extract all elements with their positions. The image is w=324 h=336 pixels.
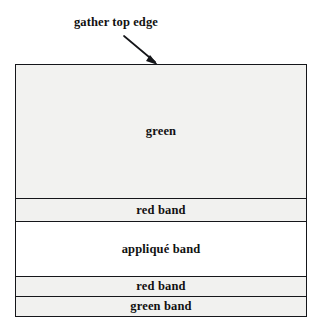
band-red-lower-label: red band: [136, 280, 185, 293]
band-red-lower: red band: [16, 277, 306, 297]
band-green-lower: green band: [16, 297, 306, 316]
band-applique: appliqué band: [16, 222, 306, 277]
sewing-pattern-diagram: gather top edge green red band appliqué …: [0, 0, 324, 336]
band-green-main: green: [16, 65, 306, 199]
band-green-main-label: green: [146, 125, 176, 138]
garment-panel: green red band appliqué band red band gr…: [15, 64, 307, 317]
band-green-lower-label: green band: [130, 300, 191, 313]
band-red-upper: red band: [16, 199, 306, 222]
band-applique-label: appliqué band: [122, 243, 201, 256]
band-red-upper-label: red band: [136, 204, 185, 217]
